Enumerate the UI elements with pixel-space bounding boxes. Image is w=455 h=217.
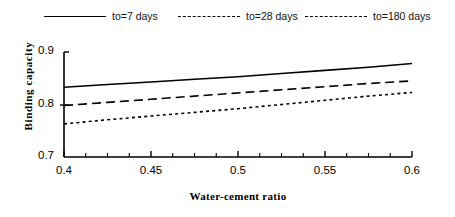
data-series-group (64, 64, 412, 124)
series-line-3 (64, 92, 412, 123)
chart-figure: to=7 days to=28 days to=180 days Binding… (0, 0, 455, 217)
x-major-ticks (64, 151, 412, 157)
plot-area (0, 0, 455, 217)
